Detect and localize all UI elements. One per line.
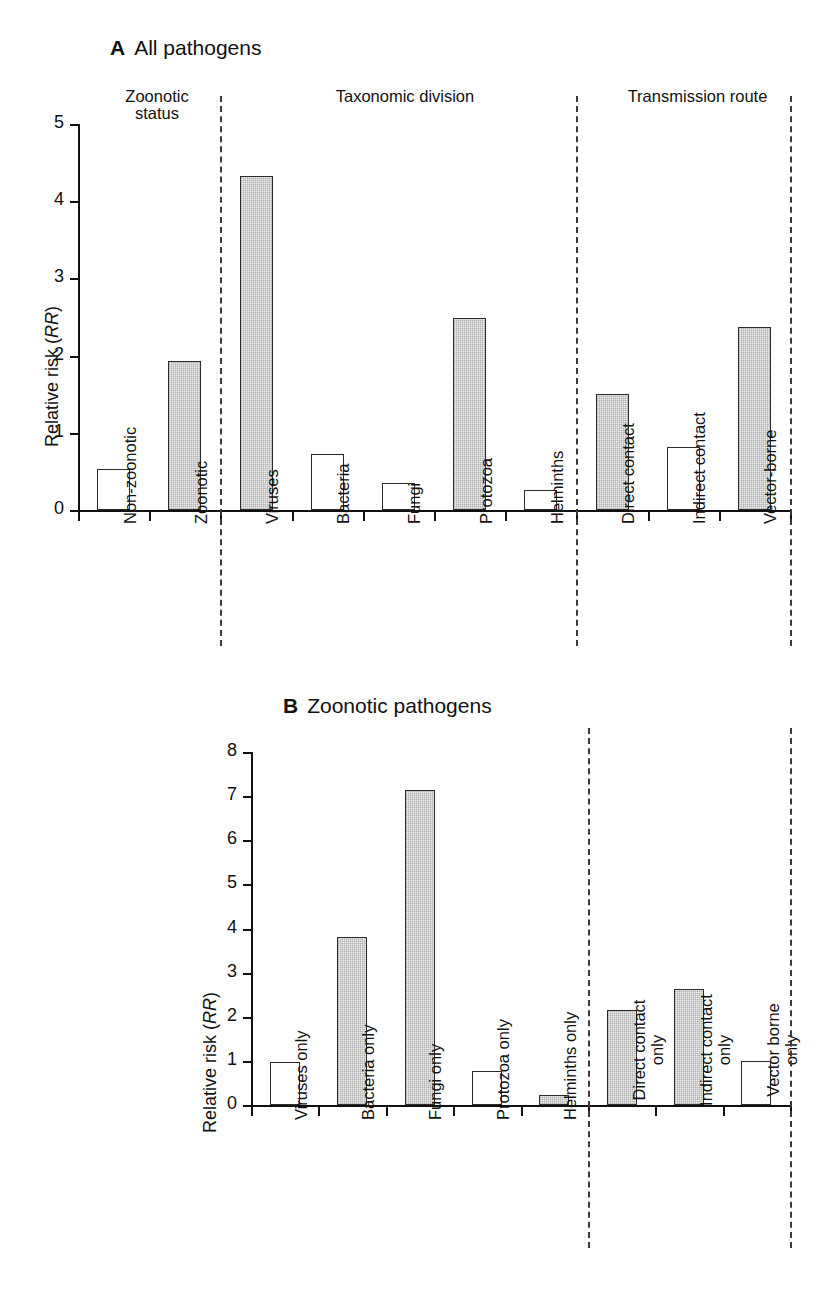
y-axis-tick: [243, 1105, 251, 1107]
group-header-zoonotic-status-line1: Zoonotic: [97, 88, 217, 105]
panel-a-title: AAll pathogens: [110, 36, 261, 60]
group-divider: [790, 728, 792, 1248]
bar: [240, 176, 273, 510]
x-axis-tick: [363, 512, 365, 521]
y-axis-tick-label: 2: [50, 344, 64, 365]
x-axis-tick: [386, 1107, 388, 1116]
y-axis-tick-label: 5: [50, 112, 64, 133]
group-divider: [588, 728, 590, 1248]
y-axis-tick-label: 1: [223, 1049, 237, 1070]
x-axis-category-label: Helminths only: [562, 1012, 580, 1120]
y-axis-tick: [243, 1061, 251, 1063]
x-axis-category-label: Indirect contact: [691, 412, 709, 524]
y-axis-tick-label: 0: [50, 498, 64, 519]
x-axis-category-label: Protozoa: [478, 458, 496, 524]
panel-b-title: BZoonotic pathogens: [283, 694, 492, 718]
group-header-zoonotic-status-line2: status: [97, 105, 217, 122]
x-axis-category-label: Bacteria only: [360, 1025, 378, 1120]
y-axis-line: [78, 124, 80, 512]
x-axis-tick: [719, 512, 721, 521]
y-axis-tick-label: 5: [223, 872, 237, 893]
x-axis-tick: [655, 1107, 657, 1116]
x-axis-category-label: Indirect contactonly: [698, 980, 734, 1120]
panel-a-title-text: All pathogens: [134, 36, 261, 59]
y-axis-tick-label: 6: [223, 828, 237, 849]
y-axis-tick: [243, 840, 251, 842]
x-axis-category-label: Non-zoonotic: [122, 427, 140, 524]
x-axis-category-label: Zoonotic: [193, 461, 211, 524]
y-axis-tick-label: 4: [50, 189, 64, 210]
x-axis-category-label: Fungi: [406, 483, 424, 524]
panel-b-title-text: Zoonotic pathogens: [307, 694, 491, 717]
panel-b-zoonotic-pathogens: BZoonotic pathogens Relative risk (RR) 0…: [0, 668, 828, 1315]
panel-a-letter: A: [110, 36, 125, 59]
y-axis-tick: [243, 929, 251, 931]
x-axis-category-label: Viruses only: [293, 1030, 311, 1120]
y-axis-tick: [70, 278, 78, 280]
x-axis-tick: [505, 512, 507, 521]
y-axis-tick-label: 7: [223, 784, 237, 805]
x-axis-category-label: Direct contactonly: [631, 980, 667, 1120]
y-axis-tick: [243, 884, 251, 886]
y-axis-tick: [243, 752, 251, 754]
x-axis-tick: [521, 1107, 523, 1116]
y-axis-tick: [243, 973, 251, 975]
x-axis-tick: [434, 512, 436, 521]
y-axis-tick-label: 0: [223, 1093, 237, 1114]
y-axis-tick-label: 4: [223, 917, 237, 938]
x-axis-category-label: Vector-borne: [762, 430, 780, 524]
group-header-transmission-route: Transmission route: [590, 88, 805, 105]
x-axis-category-label: Fungi only: [427, 1044, 445, 1120]
x-axis-category-label: Bacteria: [335, 463, 353, 524]
y-axis-tick-label: 2: [223, 1005, 237, 1026]
group-divider: [576, 96, 578, 646]
group-header-taxonomic-division: Taxonomic division: [255, 88, 555, 105]
x-axis-tick: [648, 512, 650, 521]
x-axis-tick: [292, 512, 294, 521]
y-axis-tick-label: 1: [50, 421, 64, 442]
x-axis-tick: [149, 512, 151, 521]
y-axis-tick: [70, 201, 78, 203]
x-axis-tick: [723, 1107, 725, 1116]
x-axis-category-label: Protozoa only: [495, 1019, 513, 1120]
y-axis-tick-label: 3: [50, 266, 64, 287]
y-axis-tick: [70, 510, 78, 512]
y-axis-tick: [70, 433, 78, 435]
y-axis-line: [251, 752, 253, 1107]
panel-b-letter: B: [283, 694, 298, 717]
x-axis-category-label: Direct contact: [620, 423, 638, 524]
x-axis-tick: [78, 512, 80, 521]
group-divider: [220, 96, 222, 646]
y-axis-tick: [70, 124, 78, 126]
x-axis-tick: [318, 1107, 320, 1116]
x-axis-tick: [453, 1107, 455, 1116]
group-divider: [790, 96, 792, 646]
x-axis-category-label: Vector borneonly: [765, 980, 801, 1120]
y-axis-tick-label: 3: [223, 961, 237, 982]
panel-b-y-axis-label: Relative risk (RR): [200, 992, 221, 1133]
y-axis-tick-label: 8: [223, 740, 237, 761]
group-header-zoonotic-status: Zoonotic status: [97, 88, 217, 123]
y-axis-tick: [70, 356, 78, 358]
y-axis-tick: [243, 1017, 251, 1019]
x-axis-tick: [251, 1107, 253, 1116]
y-axis-tick: [243, 796, 251, 798]
x-axis-category-label: Helminths: [549, 451, 567, 524]
x-axis-category-label: Viruses: [264, 469, 282, 524]
panel-a-all-pathogens: AAll pathogens Zoonotic status Taxonomic…: [0, 0, 828, 668]
